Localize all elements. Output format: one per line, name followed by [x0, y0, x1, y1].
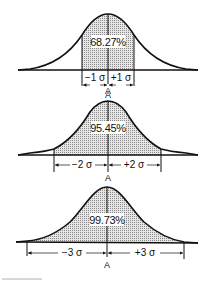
minus-sigma-label-3: −3 σ — [62, 247, 83, 258]
normal-distribution-figure: 68.27% −1 σ +1 σ A A 95.45% −2 σ +2 σ A — [0, 0, 214, 281]
panel-1-sigma: 68.27% −1 σ +1 σ A — [18, 14, 198, 96]
caption-fragment — [2, 278, 42, 280]
plus-sigma-label-3: +3 σ — [135, 247, 156, 258]
panel-3-sigma: 99.73% −3 σ +3 σ A — [16, 187, 198, 270]
percentage-label-2: 95.45% — [90, 122, 126, 134]
plus-sigma-label-1: +1 σ — [111, 72, 132, 83]
mean-label-2: A — [105, 173, 111, 183]
minus-sigma-label-1: −1 σ — [85, 72, 106, 83]
minus-sigma-label-2: −2 σ — [72, 159, 93, 170]
panel-2-sigma: A 95.45% −2 σ +2 σ A — [18, 90, 198, 183]
plus-sigma-label-2: +2 σ — [124, 159, 145, 170]
percentage-label-1: 68.27% — [90, 36, 126, 48]
percentage-label-3: 99.73% — [89, 214, 125, 226]
mean-label-2-top: A — [105, 90, 111, 100]
mean-label-3: A — [104, 260, 110, 270]
